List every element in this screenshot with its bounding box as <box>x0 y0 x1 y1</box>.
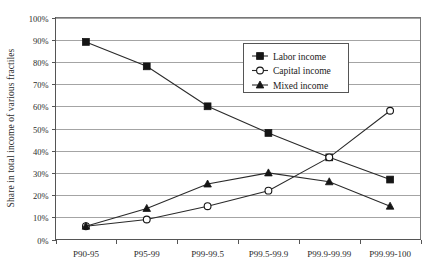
x-category-label: P99-99.5 <box>191 249 224 259</box>
legend-label: Labor income <box>273 52 326 62</box>
y-tick-label: 20% <box>33 191 49 201</box>
x-category-label: P95-99 <box>134 249 161 259</box>
x-category-label: P99.9-99.99 <box>307 249 352 259</box>
chart-legend: Labor incomeCapital incomeMixed income <box>244 44 349 93</box>
data-point-square-marker <box>204 103 211 110</box>
y-tick-label: 40% <box>33 147 49 157</box>
legend-label: Capital income <box>273 66 331 76</box>
y-tick-label: 70% <box>33 80 49 90</box>
data-point-circle-marker <box>387 107 394 114</box>
y-tick-label: 10% <box>33 213 49 223</box>
y-tick-label: 30% <box>33 169 49 179</box>
data-point-circle-marker <box>265 187 272 194</box>
data-point-square-marker <box>387 176 394 183</box>
y-axis-title: Share in total income of various fractil… <box>6 48 16 207</box>
y-tick-label: 80% <box>33 58 49 68</box>
data-point-circle-marker <box>143 216 150 223</box>
data-point-square-marker <box>143 63 150 70</box>
data-point-circle-marker <box>204 203 211 210</box>
x-category-label: P99.5-99.9 <box>249 249 289 259</box>
y-tick-label: 0% <box>37 236 48 246</box>
line-chart: 0%10%20%30%40%50%60%70%80%90%100% P90-95… <box>0 0 431 271</box>
data-point-square-marker <box>265 130 272 137</box>
chart-figure: 0%10%20%30%40%50%60%70%80%90%100% P90-95… <box>0 0 431 271</box>
x-category-label: P99.99-100 <box>369 249 411 259</box>
x-category-label: P90-95 <box>73 249 100 259</box>
data-point-circle-marker <box>326 154 333 161</box>
y-tick-label: 60% <box>33 102 49 112</box>
y-tick-label: 100% <box>29 14 49 24</box>
y-tick-label: 90% <box>33 36 49 46</box>
legend-circle-marker <box>257 67 264 74</box>
data-point-square-marker <box>83 39 90 46</box>
legend-square-marker <box>257 53 264 60</box>
legend-label: Mixed income <box>273 81 328 91</box>
y-tick-label: 50% <box>33 125 49 135</box>
